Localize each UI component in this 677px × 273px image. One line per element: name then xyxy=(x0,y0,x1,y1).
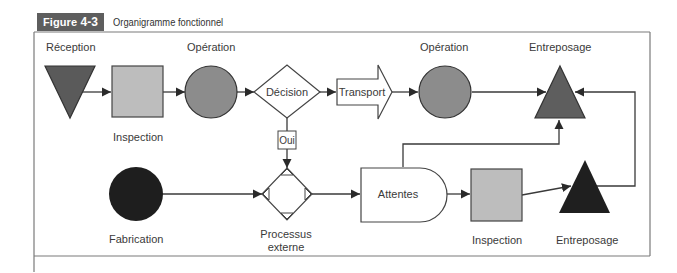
reception-label: Réception xyxy=(46,41,96,53)
node-entreposage-top: Entreposage xyxy=(529,41,591,118)
fabrication-label: Fabrication xyxy=(109,233,163,245)
node-inspection-top: Inspection xyxy=(112,66,163,143)
node-fabrication: Fabrication xyxy=(109,167,163,245)
operation-circle-icon xyxy=(185,66,237,118)
node-inspection-bottom: Inspection xyxy=(471,169,522,246)
inspection-square-icon xyxy=(112,66,163,117)
flowchart-diagram: Réception Inspection Opération Décision … xyxy=(0,0,677,273)
node-transport: Transport xyxy=(337,65,392,119)
processus-label-line1: Processus xyxy=(260,228,312,240)
node-entreposage-bottom: Entreposage xyxy=(556,160,618,246)
oui-label: Oui xyxy=(279,135,295,146)
operation-2-label: Opération xyxy=(420,41,468,53)
inspection-top-label: Inspection xyxy=(113,131,163,143)
node-operation-1: Opération xyxy=(185,41,237,118)
operation-1-label: Opération xyxy=(187,41,235,53)
operation-circle-icon xyxy=(419,66,471,118)
decision-label: Décision xyxy=(266,86,308,98)
attentes-label: Attentes xyxy=(378,188,419,200)
fabrication-circle-icon xyxy=(109,167,163,221)
oui-badge: Oui xyxy=(278,131,296,149)
node-decision: Décision xyxy=(254,65,320,118)
entreposage-top-label: Entreposage xyxy=(529,41,591,53)
entreposage-bottom-label: Entreposage xyxy=(556,234,618,246)
transport-label: Transport xyxy=(339,86,386,98)
node-operation-2: Opération xyxy=(419,41,471,118)
inspection-square-icon xyxy=(471,169,522,221)
inspection-bottom-label: Inspection xyxy=(472,234,522,246)
node-reception: Réception xyxy=(45,41,96,118)
node-processus-externe: Processus externe xyxy=(260,168,312,253)
processus-label-line2: externe xyxy=(268,241,305,253)
node-attentes: Attentes xyxy=(361,168,447,222)
